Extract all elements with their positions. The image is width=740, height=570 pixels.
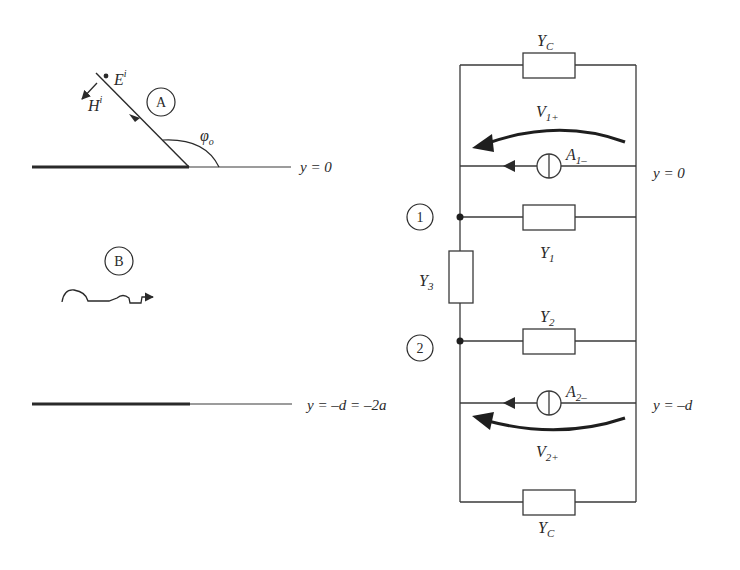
- e-field-dot-icon: [104, 74, 109, 79]
- v2-arrowhead-icon: [472, 412, 494, 430]
- diagram-canvas: y = 0 Ei Hi A φo B y = –d = –2a YC V1+ A…: [0, 0, 740, 570]
- y2-resistor: [523, 329, 575, 354]
- region-b-label: B: [114, 254, 123, 269]
- v1-label: V1+: [536, 103, 559, 123]
- bottom-yc-resistor: [523, 490, 575, 515]
- node-2-label: 2: [417, 341, 424, 356]
- a1-direction-arrow-icon: [503, 160, 515, 172]
- bottom-port-label: y = –d: [651, 397, 693, 413]
- top-boundary-label: y = 0: [298, 159, 332, 175]
- y2-label: Y2: [540, 308, 555, 328]
- v2-label: V2+: [536, 443, 559, 463]
- a2-direction-arrow-icon: [503, 397, 515, 409]
- v2-curved-arrow: [488, 418, 625, 430]
- y3-resistor: [449, 251, 473, 303]
- region-a-label: A: [156, 95, 167, 110]
- top-yc-resistor: [523, 53, 575, 78]
- top-port-label: y = 0: [651, 165, 685, 181]
- a1-label: A1–: [565, 146, 587, 166]
- y1-label: Y1: [540, 244, 554, 264]
- diagram-svg: y = 0 Ei Hi A φo B y = –d = –2a YC V1+ A…: [0, 0, 740, 570]
- v1-arrowhead-icon: [472, 134, 494, 152]
- angle-label: φo: [200, 127, 214, 147]
- node-2-dot-icon: [457, 338, 464, 345]
- bottom-yc-label: YC: [538, 519, 555, 539]
- h-field-label: Hi: [87, 94, 103, 114]
- y1-resistor: [523, 205, 575, 230]
- guided-wave-squiggle-icon: [62, 290, 153, 303]
- e-field-label: Ei: [113, 68, 127, 88]
- bottom-boundary-label: y = –d = –2a: [305, 397, 386, 413]
- a2-label: A2–: [565, 383, 587, 403]
- top-yc-label: YC: [537, 32, 554, 52]
- y3-label: Y3: [419, 272, 434, 292]
- node-1-dot-icon: [457, 214, 464, 221]
- node-1-label: 1: [417, 210, 424, 225]
- incident-ray: [96, 73, 189, 167]
- v1-curved-arrow: [488, 130, 625, 143]
